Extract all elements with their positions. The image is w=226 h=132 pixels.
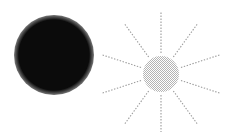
figure-svg xyxy=(0,0,226,132)
solid-black-circle xyxy=(14,15,94,95)
figure-canvas xyxy=(0,0,226,132)
sun-gray-disc xyxy=(143,56,179,92)
